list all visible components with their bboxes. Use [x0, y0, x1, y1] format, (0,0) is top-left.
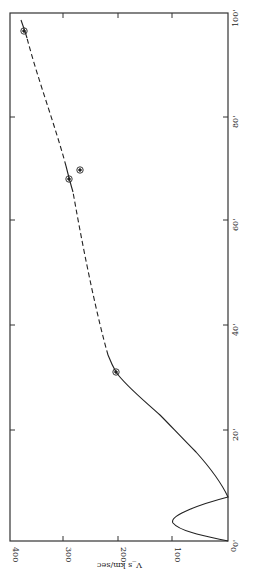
data-point [77, 167, 83, 173]
x-tick-label-20: 20' [231, 429, 240, 441]
x-tick-label-60: 60' [231, 219, 240, 231]
plot-frame [10, 13, 228, 541]
curve-dashed-middle [73, 192, 108, 355]
x-axis [10, 117, 228, 430]
curve-dashed-upper [27, 38, 66, 166]
rotation-curve-chart: 400 300 200 100 0 V_s km/sec 0' 20' 40' … [0, 0, 256, 574]
x-tick-label-80: 80' [231, 116, 240, 128]
y-tick-label-200: 200 [119, 547, 128, 562]
data-point [113, 369, 119, 375]
curve-solid-lower [108, 355, 228, 541]
x-tick-label-40: 40' [231, 324, 240, 336]
y-axis-label: V_s km/sec [97, 561, 143, 570]
y-tick-label-300: 300 [64, 547, 73, 562]
y-axis [63, 536, 172, 541]
data-points [21, 28, 119, 375]
x-tick-label-100: 100' [231, 10, 240, 27]
y-axis-top-ticks [63, 13, 172, 18]
y-tick-label-100: 100 [173, 547, 182, 562]
y-tick-label-400: 400 [11, 547, 20, 562]
x-tick-label-0: 0' [231, 540, 240, 547]
